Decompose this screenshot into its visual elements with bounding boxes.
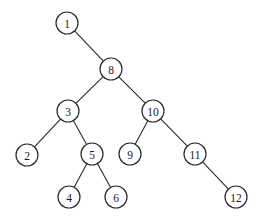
- node-label: 9: [127, 149, 133, 161]
- edge-10-11: [161, 119, 188, 146]
- edge-1-8: [75, 31, 104, 61]
- edge-3-2: [34, 119, 60, 147]
- tree-node-9: 9: [119, 143, 141, 165]
- edge-11-12: [203, 162, 229, 189]
- tree-node-3: 3: [57, 100, 79, 122]
- nodes-group: 18310259114612: [16, 12, 247, 208]
- edge-5-4: [74, 164, 87, 188]
- node-label: 11: [189, 149, 200, 161]
- tree-node-5: 5: [81, 143, 103, 165]
- tree-node-6: 6: [105, 186, 127, 208]
- edge-10-9: [135, 121, 148, 145]
- edge-8-10: [119, 77, 145, 103]
- tree-node-12: 12: [225, 186, 247, 208]
- node-label: 5: [89, 149, 95, 161]
- edge-8-3: [76, 77, 103, 104]
- node-label: 4: [66, 192, 72, 204]
- node-label: 6: [113, 192, 119, 204]
- tree-node-11: 11: [184, 143, 206, 165]
- tree-node-8: 8: [100, 58, 122, 80]
- tree-node-2: 2: [16, 144, 38, 166]
- node-label: 12: [230, 192, 242, 204]
- edge-5-6: [97, 164, 110, 188]
- tree-node-10: 10: [142, 100, 164, 122]
- tree-diagram: 18310259114612: [0, 0, 262, 223]
- node-label: 8: [108, 64, 114, 76]
- node-label: 2: [24, 150, 30, 162]
- node-label: 1: [64, 18, 70, 30]
- tree-node-1: 1: [56, 12, 78, 34]
- edge-3-5: [73, 121, 86, 145]
- node-label: 3: [65, 106, 71, 118]
- tree-node-4: 4: [58, 186, 80, 208]
- node-label: 10: [147, 106, 159, 118]
